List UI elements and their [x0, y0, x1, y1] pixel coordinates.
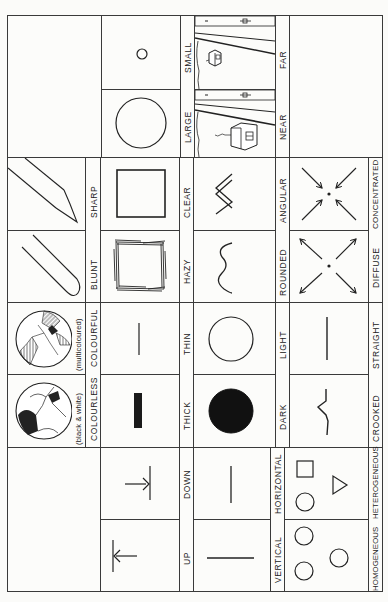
- label-down: DOWN: [182, 470, 192, 499]
- cell-angular: [193, 157, 276, 231]
- label-heterogeneous: HETEROGENEOUS: [371, 446, 380, 519]
- cell-thick: [100, 374, 180, 448]
- empty-cell: [289, 15, 383, 158]
- arrows-inward-icon: [290, 158, 368, 230]
- cell-clear: [100, 157, 180, 231]
- cell-vertical: [193, 519, 271, 592]
- label-homogeneous: HOMOGENEOUS: [371, 527, 380, 591]
- label-horizontal: HORIZONTAL: [273, 454, 283, 514]
- label-strip: HETEROGENEOUS HOMOGENEOUS: [368, 447, 383, 592]
- label-sharp: SHARP: [89, 186, 99, 218]
- cell-thin: [100, 302, 180, 375]
- label-strip: CONCENTRATED DIFFUSE: [368, 157, 383, 303]
- cell-horizontal: [193, 447, 271, 520]
- arrow-down-icon: [101, 448, 179, 519]
- three-circles-icon: [285, 520, 368, 591]
- mixed-shapes-icon: [285, 448, 368, 519]
- cell-colourless: (black & white): [7, 374, 86, 448]
- cell-far: [194, 15, 276, 90]
- label-vertical: VERTICAL: [273, 537, 283, 583]
- cell-dark: [193, 374, 276, 448]
- label-angular: ANGULAR: [278, 178, 288, 223]
- label-diffuse: DIFFUSE: [371, 247, 381, 288]
- thick-bar-icon: [101, 375, 179, 447]
- label-strip: HORIZONTAL VERTICAL: [270, 447, 285, 592]
- cell-concentrated: [289, 157, 369, 231]
- label-large: LARGE: [183, 111, 193, 143]
- label-rounded: ROUNDED: [278, 249, 288, 296]
- vertical-line-icon: [194, 520, 270, 591]
- label-colourless: COLOURLESS: [89, 377, 99, 441]
- note-black-white: (black & white): [74, 393, 83, 445]
- cell-rounded: [193, 230, 276, 303]
- cell-colourful: (multicoloured): [7, 302, 86, 375]
- empty-cell: [7, 15, 102, 158]
- label-crooked: CROOKED: [371, 395, 381, 442]
- cell-large: [101, 89, 181, 158]
- cell-heterogeneous: [284, 447, 369, 520]
- clear-square-icon: [101, 158, 179, 230]
- cell-light: [193, 302, 276, 375]
- multicoloured-ball-icon: [8, 303, 72, 374]
- blunt-pencil-icon: [8, 231, 85, 302]
- cell-down: [100, 447, 180, 520]
- cell-near: [194, 89, 276, 158]
- cell-crooked: [289, 374, 369, 448]
- horizontal-line-icon: [194, 448, 270, 519]
- filled-circle-icon: [194, 375, 275, 447]
- hazy-square-icon: [101, 231, 179, 302]
- wavy-line-icon: [194, 231, 275, 302]
- cell-homogeneous: [284, 519, 369, 592]
- label-colourful: COLOURFUL: [89, 309, 99, 367]
- cell-hazy: [100, 230, 180, 303]
- label-light: LIGHT: [278, 331, 288, 359]
- label-strip: THIN THICK: [179, 302, 194, 448]
- label-small: SMALL: [183, 42, 193, 73]
- arrows-outward-icon: [290, 231, 368, 302]
- label-thick: THICK: [182, 402, 192, 431]
- label-strip: SMALL LARGE: [180, 15, 195, 158]
- label-concentrated: CONCENTRATED: [371, 159, 380, 229]
- crooked-line-icon: [290, 375, 368, 447]
- cell-up: [100, 519, 180, 592]
- far-house-road-icon: [195, 16, 275, 89]
- label-thin: THIN: [182, 333, 192, 355]
- label-strip: LIGHT DARK: [275, 302, 290, 448]
- cell-sharp: [7, 157, 86, 231]
- cell-small: [101, 15, 181, 90]
- zigzag-line-icon: [194, 158, 275, 230]
- label-strip: SHARP BLUNT: [85, 157, 101, 303]
- label-near: NEAR: [278, 114, 288, 140]
- cell-diffuse: [289, 230, 369, 303]
- label-strip: FAR NEAR: [275, 15, 290, 158]
- large-circle-icon: [102, 90, 180, 157]
- cell-blunt: [7, 230, 86, 303]
- empty-cell: [7, 447, 101, 592]
- arrow-up-icon: [101, 520, 179, 591]
- outline-circle-icon: [194, 303, 275, 374]
- label-strip: COLOURFUL COLOURLESS: [85, 302, 101, 448]
- note-multicoloured: (multicoloured): [74, 318, 83, 371]
- label-hazy: HAZY: [182, 259, 192, 284]
- cell-straight: [289, 302, 369, 375]
- label-up: UP: [182, 552, 192, 565]
- sharp-pencil-icon: [8, 158, 85, 230]
- label-clear: CLEAR: [182, 187, 192, 218]
- label-far: FAR: [278, 51, 288, 69]
- small-circle-icon: [102, 16, 180, 89]
- label-strip: DOWN UP: [179, 447, 194, 592]
- straight-line-icon: [290, 303, 368, 374]
- label-strip: STRAIGHT CROOKED: [368, 302, 383, 448]
- label-strip: ANGULAR ROUNDED: [275, 157, 290, 303]
- near-house-road-icon: [195, 90, 275, 157]
- black-white-ball-icon: [8, 375, 72, 447]
- thin-line-icon: [101, 303, 179, 374]
- label-straight: STRAIGHT: [371, 321, 381, 369]
- label-strip: CLEAR HAZY: [179, 157, 194, 303]
- label-blunt: BLUNT: [89, 259, 99, 290]
- label-dark: DARK: [278, 404, 288, 430]
